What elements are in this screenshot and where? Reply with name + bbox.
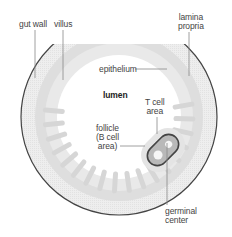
villus bbox=[45, 123, 62, 125]
label-epithelium: epithelium bbox=[99, 65, 137, 74]
villus bbox=[127, 173, 129, 190]
label-gut-wall: gut wall bbox=[19, 20, 47, 29]
label-lumen: lumen bbox=[103, 91, 128, 100]
villus bbox=[45, 110, 62, 112]
label-t-cell-area: T cell area bbox=[145, 98, 165, 116]
label-follicle: follicle (B cell area) bbox=[96, 124, 119, 151]
villus bbox=[175, 104, 192, 107]
villus bbox=[114, 174, 115, 191]
gut-cross-section-diagram: gut wall villus lamina propria epitheliu… bbox=[0, 0, 232, 237]
label-germinal-center: germinal center bbox=[165, 207, 197, 225]
diagram-graphic bbox=[0, 0, 232, 237]
label-lamina-propria: lamina propria bbox=[178, 13, 204, 31]
label-villus: villus bbox=[54, 20, 72, 29]
